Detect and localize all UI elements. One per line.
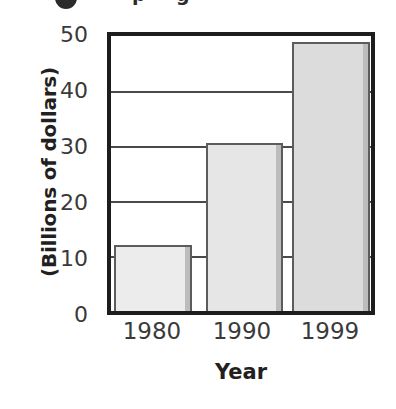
x-tick-label-1990: 1990	[194, 320, 290, 343]
x-axis-title: Year	[107, 360, 375, 384]
y-tick-label-50: 50	[44, 24, 88, 46]
bar-1980-face	[116, 247, 190, 311]
bar-1990-face	[208, 145, 281, 311]
cropped-glyph-2: g	[176, 0, 190, 4]
plot-area	[107, 32, 375, 315]
x-tick-label-1999: 1999	[282, 320, 378, 343]
bar-1999-face	[294, 44, 368, 312]
cropped-glyph-1: p	[132, 0, 146, 4]
y-tick-label-40: 40	[44, 80, 88, 102]
y-tick-label-30: 30	[44, 136, 88, 158]
y-tick-label-10: 10	[44, 248, 88, 270]
bar-1999	[292, 42, 370, 312]
bar-1990-shadow-edge	[276, 145, 281, 311]
y-tick-label-20: 20	[44, 192, 88, 214]
bar-1990	[206, 143, 283, 311]
cropped-heading-artifact: p g	[0, 0, 396, 11]
bar-1980-shadow-edge	[185, 247, 190, 311]
x-tick-label-1980: 1980	[104, 320, 200, 343]
bar-1980	[114, 245, 192, 311]
y-tick-label-0: 0	[44, 304, 88, 326]
bar-1999-shadow-edge	[363, 44, 368, 312]
plot-inner	[111, 36, 371, 311]
circled-bullet-icon	[55, 0, 77, 9]
y-axis-title: (Billions of dollars)	[37, 27, 61, 317]
bar-chart-figure: p g (Billions of dollars) 50 40 30 20 10…	[0, 0, 396, 409]
